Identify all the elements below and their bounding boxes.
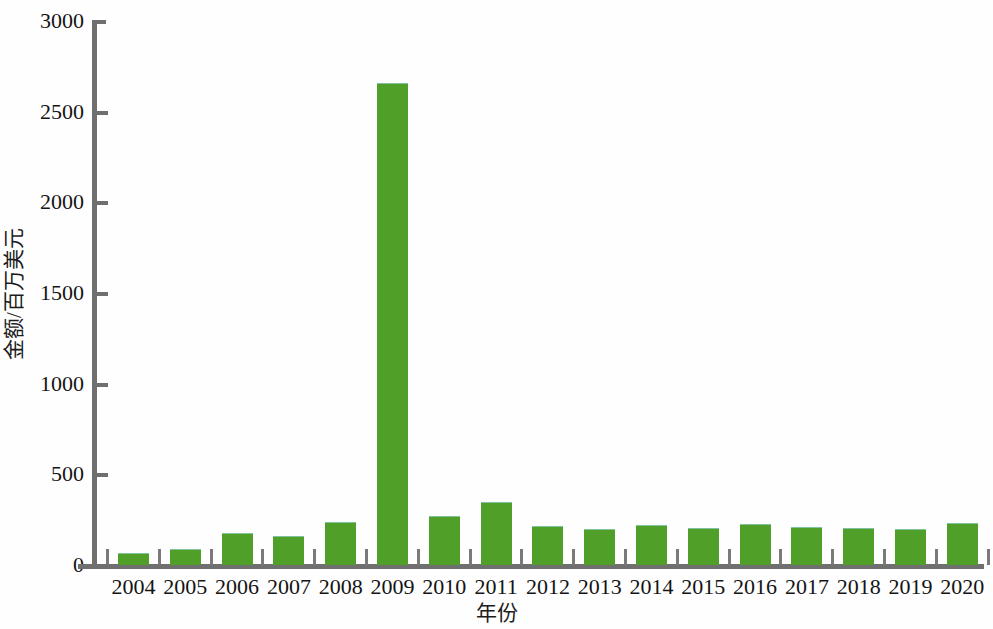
- y-axis-tick-mark: [97, 383, 108, 387]
- y-axis-tick-mark: [97, 111, 108, 115]
- x-axis-tick-mark: [365, 549, 368, 565]
- x-axis-tick-mark: [106, 549, 109, 565]
- bar: [636, 525, 667, 565]
- bar: [273, 536, 304, 565]
- bar: [429, 516, 460, 565]
- bar: [532, 526, 563, 565]
- x-axis-tick-mark: [831, 549, 834, 565]
- x-axis-tick-mark: [313, 549, 316, 565]
- x-axis-tick-mark: [883, 549, 886, 565]
- x-axis-tick-mark: [469, 549, 472, 565]
- y-axis-tick-mark: [97, 473, 108, 477]
- x-axis-title: 年份: [0, 601, 993, 625]
- bar: [118, 553, 149, 565]
- bar: [325, 522, 356, 565]
- x-axis-tick-mark: [417, 549, 420, 565]
- bar: [947, 523, 978, 565]
- bar: [843, 528, 874, 565]
- x-axis-tick-mark: [987, 549, 990, 565]
- x-axis-tick-mark: [779, 549, 782, 565]
- x-axis-tick-mark: [158, 549, 161, 565]
- bar: [170, 549, 201, 565]
- x-axis-tick-mark: [624, 549, 627, 565]
- x-axis-tick-mark: [572, 549, 575, 565]
- y-axis-tick-mark-zero: [78, 564, 108, 569]
- y-axis-tick-mark: [97, 201, 108, 205]
- bar: [791, 527, 822, 565]
- x-axis-tick-mark: [935, 549, 938, 565]
- x-axis-tick-mark: [210, 549, 213, 565]
- bar: [584, 529, 615, 565]
- bar-chart: 金额/百万美元 050010001500200025003000 2004200…: [0, 0, 993, 629]
- x-axis-tick-mark: [728, 549, 731, 565]
- x-axis-tick-mark: [520, 549, 523, 565]
- bar: [222, 533, 253, 565]
- bar: [740, 524, 771, 565]
- bar: [481, 502, 512, 565]
- y-axis-tick-mark: [97, 292, 108, 296]
- bar: [688, 528, 719, 565]
- bar: [377, 83, 408, 565]
- x-axis-tick-label: 2020: [930, 575, 993, 599]
- plot-area: 2004200520062007200820092010201120122013…: [0, 0, 993, 629]
- x-axis-tick-mark: [676, 549, 679, 565]
- x-axis-tick-mark: [261, 549, 264, 565]
- bar: [895, 529, 926, 565]
